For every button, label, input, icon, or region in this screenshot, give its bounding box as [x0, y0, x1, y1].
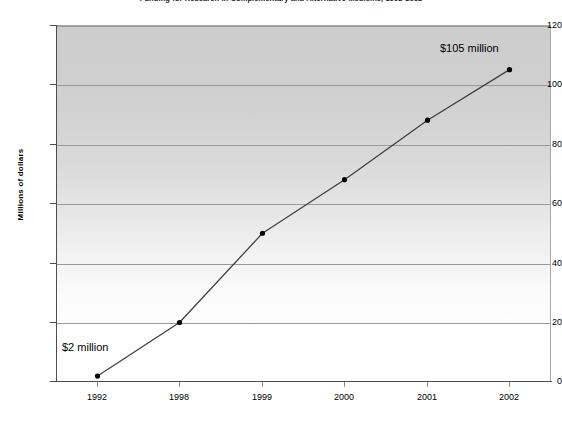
- y-tick-label-120: 120: [518, 21, 562, 30]
- gridline-20: [57, 323, 550, 324]
- x-tick-label-2002: 2002: [474, 392, 544, 402]
- annotation-start-value: $2 million: [62, 341, 108, 354]
- y-tick-mark-120: [50, 25, 56, 26]
- y-axis-line: [56, 25, 57, 382]
- chart-title: Funding for Research in Complementary an…: [0, 0, 562, 3]
- x-tick-mark-2001: [427, 382, 428, 387]
- x-tick-mark-1992: [97, 382, 98, 387]
- x-tick-mark-2002: [509, 382, 510, 387]
- x-tick-mark-2000: [344, 382, 345, 387]
- y-axis-title: Millions of dollars: [16, 125, 25, 245]
- x-tick-label-1999: 1999: [227, 392, 297, 402]
- y-tick-label-40: 40: [518, 259, 562, 268]
- x-tick-label-2000: 2000: [309, 392, 379, 402]
- y-tick-mark-100: [50, 84, 56, 85]
- gridline-80: [57, 145, 550, 146]
- gridline-100: [57, 85, 550, 86]
- annotation-end-value: $105 million: [440, 42, 499, 55]
- y-tick-mark-20: [50, 322, 56, 323]
- chart-container: Funding for Research in Complementary an…: [0, 0, 562, 421]
- y-tick-mark-60: [50, 203, 56, 204]
- y-tick-mark-80: [50, 144, 56, 145]
- gridline-120: [57, 26, 550, 27]
- plot-area: [56, 25, 551, 382]
- gridline-60: [57, 204, 550, 205]
- x-tick-label-1998: 1998: [144, 392, 214, 402]
- y-tick-mark-40: [50, 263, 56, 264]
- x-tick-mark-1999: [262, 382, 263, 387]
- x-tick-label-2001: 2001: [392, 392, 462, 402]
- x-axis-line: [56, 381, 552, 382]
- y-tick-label-80: 80: [518, 140, 562, 149]
- y-tick-mark-0: [50, 381, 56, 382]
- y-tick-label-100: 100: [518, 80, 562, 89]
- y-tick-label-20: 20: [518, 318, 562, 327]
- x-tick-mark-1998: [179, 382, 180, 387]
- y-tick-label-0: 0: [518, 377, 562, 386]
- gridline-40: [57, 264, 550, 265]
- y-tick-label-60: 60: [518, 199, 562, 208]
- x-tick-label-1992: 1992: [62, 392, 132, 402]
